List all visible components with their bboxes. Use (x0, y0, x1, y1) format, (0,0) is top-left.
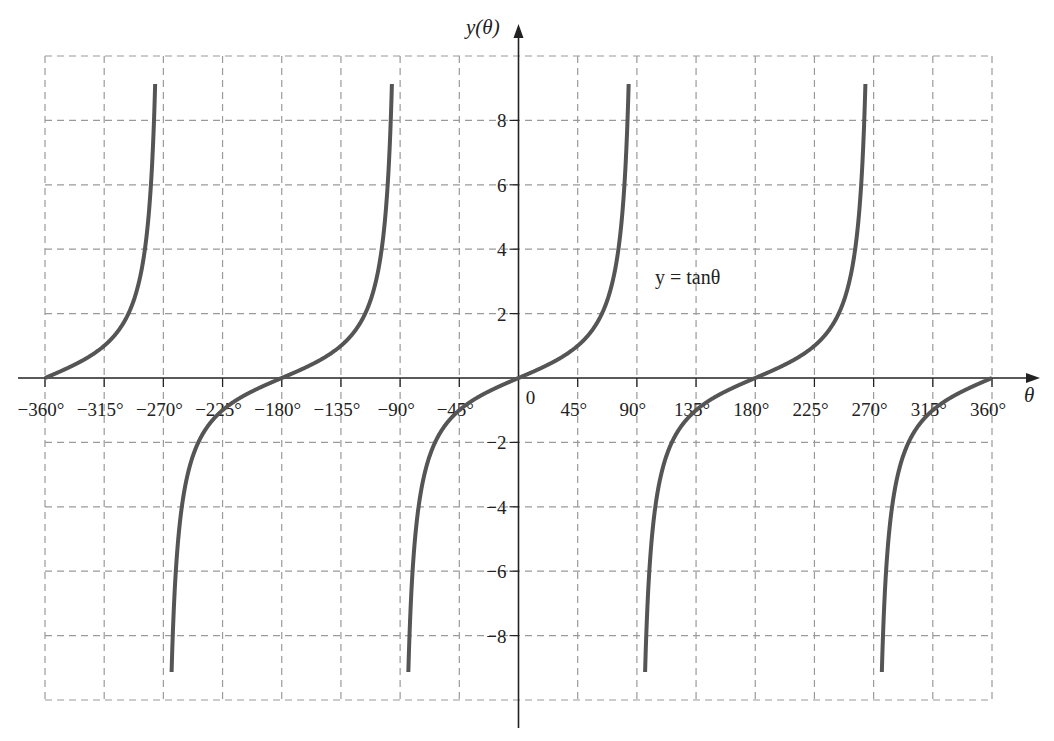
y-tick-label: 2 (497, 304, 507, 325)
x-axis-arrow-icon (1026, 373, 1040, 383)
x-tick-label: 0 (526, 387, 536, 408)
y-tick-label: −2 (486, 432, 506, 453)
x-tick-label: −270° (136, 399, 183, 420)
y-tick-label: −6 (486, 561, 506, 582)
x-tick-label: −135° (314, 399, 361, 420)
y-tick-label: 8 (497, 110, 507, 131)
x-tick-label: 90° (620, 399, 647, 420)
x-tick-label: 180° (733, 399, 769, 420)
x-tick-label: −360° (18, 399, 65, 420)
x-tick-label: 360° (970, 399, 1006, 420)
y-axis-arrow-icon (514, 24, 524, 38)
x-tick-label: 45° (560, 399, 587, 420)
y-axis-label: y(θ) (464, 15, 500, 39)
y-tick-label: −8 (486, 626, 506, 647)
x-tick-label: −180° (254, 399, 301, 420)
y-tick-label: 4 (497, 239, 507, 260)
x-tick-label: 270° (852, 399, 888, 420)
x-tick-label: −90° (377, 399, 414, 420)
y-tick-label: −4 (486, 497, 507, 518)
function-annotation: y = tanθ (655, 266, 720, 289)
tan-curve-branch (45, 84, 155, 378)
x-tick-label: −315° (77, 399, 124, 420)
tan-chart: −360°−315°−270°−225°−180°−135°−90°−45°04… (0, 0, 1054, 741)
tan-curve-branch (882, 378, 992, 672)
x-axis-label: θ (1024, 383, 1034, 407)
y-tick-label: 6 (497, 175, 507, 196)
x-tick-label: 225° (792, 399, 828, 420)
